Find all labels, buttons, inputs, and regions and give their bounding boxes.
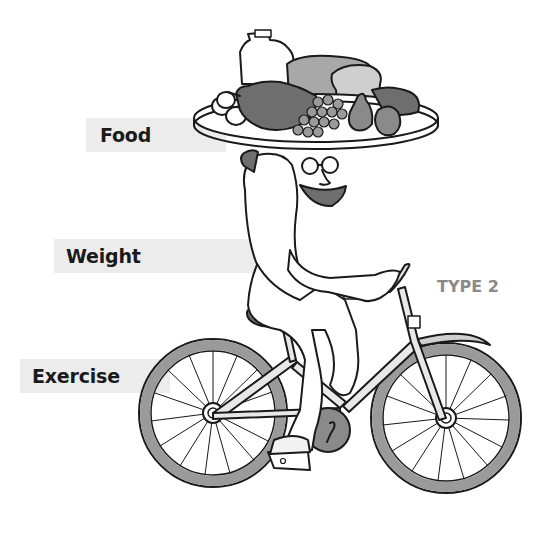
milk-jug-icon bbox=[240, 32, 293, 84]
apple-icon bbox=[375, 106, 400, 135]
cyclist-illustration bbox=[0, 0, 551, 535]
food-platter bbox=[194, 30, 438, 149]
